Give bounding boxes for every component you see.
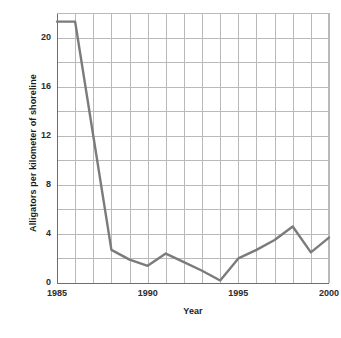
alligator-population-line-chart: 048121620 1985199019952000 Alligators pe… — [0, 0, 341, 338]
x-tick-label: 1990 — [126, 288, 170, 298]
y-axis-title: Alligators per kilometer of shoreline — [28, 38, 38, 268]
y-tick-label: 0 — [21, 277, 51, 287]
x-tick-label: 2000 — [307, 288, 341, 298]
x-axis-title: Year — [57, 306, 329, 316]
x-tick-label: 1985 — [35, 288, 79, 298]
x-tick-label: 1995 — [216, 288, 260, 298]
plot-area-background — [57, 13, 329, 283]
